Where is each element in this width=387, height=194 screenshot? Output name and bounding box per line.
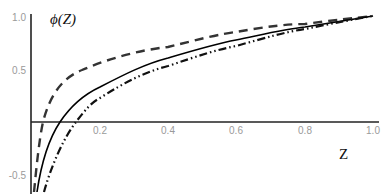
xtick-0.2: 0.2 <box>93 125 107 136</box>
series-solid <box>37 16 373 192</box>
x-axis-label: Z <box>339 146 348 162</box>
xtick-0.6: 0.6 <box>229 125 243 136</box>
series-dash-dot-dot <box>44 16 373 192</box>
ytick-1.0: 1.0 <box>12 12 26 23</box>
xtick-0.8: 0.8 <box>298 125 312 136</box>
ytick-neg0.5: -0.5 <box>9 170 27 181</box>
phi-z-chart: 1.0 0.5 -0.5 0.2 0.4 0.6 0.8 1.0 ϕ(Z) Z <box>0 0 387 194</box>
ytick-0.5: 0.5 <box>12 65 26 76</box>
series-dashed <box>34 16 373 192</box>
xtick-0.4: 0.4 <box>161 125 175 136</box>
y-axis-label: ϕ(Z) <box>50 11 76 28</box>
xtick-1.0: 1.0 <box>366 125 380 136</box>
